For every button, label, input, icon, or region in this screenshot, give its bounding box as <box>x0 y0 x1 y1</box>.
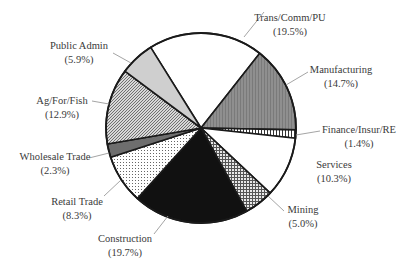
slice-label: Public Admin <box>50 40 109 51</box>
leader-line <box>113 53 131 63</box>
leader-line <box>268 196 284 211</box>
pie-slices <box>106 33 296 223</box>
slice-label: Construction <box>98 233 153 244</box>
slice-percent-label: (10.3%) <box>317 173 352 185</box>
slice-label: Finance/Insur/RE <box>322 124 396 135</box>
slice-percent-label: (14.7%) <box>324 78 359 90</box>
slice-percent-label: (12.9%) <box>45 109 80 121</box>
leader-line <box>104 180 121 196</box>
leader-line <box>92 101 109 104</box>
slice-label: Ag/For/Fish <box>36 95 88 106</box>
slice-percent-label: (5.0%) <box>289 218 318 230</box>
leader-line <box>296 131 320 135</box>
slice-percent-label: (8.3%) <box>63 210 92 222</box>
slice-percent-label: (2.3%) <box>41 165 70 177</box>
leader-line <box>154 216 168 234</box>
slice-label: Wholesale Trade <box>20 151 91 162</box>
leader-line <box>89 153 109 158</box>
slice-label: Mining <box>288 204 320 215</box>
slice-percent-label: (19.5%) <box>273 26 308 38</box>
slice-label: Retail Trade <box>51 196 103 207</box>
slice-percent-label: (19.7%) <box>108 247 143 259</box>
pie-chart: Trans/Comm/PU(19.5%)Manufacturing(14.7%)… <box>0 0 405 273</box>
leader-line <box>286 72 308 85</box>
slice-label: Trans/Comm/PU <box>254 12 326 23</box>
slice-percent-label: (1.4%) <box>345 138 374 150</box>
slice-label: Services <box>316 159 352 170</box>
slice-percent-label: (5.9%) <box>65 54 94 66</box>
slice-label: Manufacturing <box>310 64 373 75</box>
